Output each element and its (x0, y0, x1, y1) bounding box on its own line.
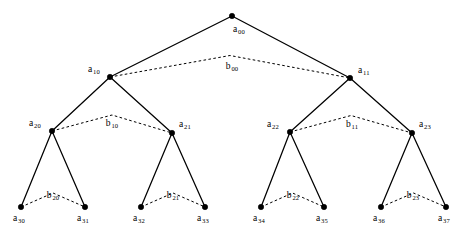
node-label-a23-subscript: 23 (423, 123, 430, 130)
tree-node-a31[interactable] (82, 204, 87, 209)
node-label-a31: a31 (77, 214, 89, 224)
node-label-a22: a22 (267, 120, 279, 130)
node-label-a31-subscript: 31 (81, 217, 88, 224)
dashed-edge-layer (21, 56, 446, 208)
tree-node-a35[interactable] (321, 204, 326, 209)
edge-label-b20: b20 (47, 191, 59, 201)
node-label-a37-subscript: 37 (442, 217, 449, 224)
tree-node-a32[interactable] (138, 204, 143, 209)
edge-label-b23: b23 (407, 191, 419, 201)
node-label-a21-subscript: 21 (183, 123, 190, 130)
node-label-a10: a10 (88, 65, 100, 75)
node-label-a20-subscript: 20 (33, 122, 40, 129)
node-label-a11-subscript: 11 (362, 69, 369, 76)
tree-node-a20[interactable] (49, 128, 54, 133)
edge-label-b20-subscript: 20 (52, 194, 59, 201)
edge-label-b22: b22 (287, 191, 299, 201)
edge-label-b00: b00 (226, 62, 238, 72)
edge-label-b00-subscript: 00 (231, 65, 238, 72)
edge-label-b10-subscript: 10 (111, 122, 118, 129)
tree-node-a36[interactable] (378, 204, 383, 209)
tree-canvas (0, 0, 467, 240)
tree-edge-a00-a11 (232, 16, 350, 78)
binary-tree-diagram: b00b10b11b20b21b22b23a00a10a11a20a21a22a… (0, 0, 467, 240)
tree-node-a37[interactable] (443, 204, 448, 209)
edge-label-b23-subscript: 23 (412, 194, 419, 201)
node-label-a34: a34 (253, 214, 265, 224)
tree-edge-a10-a21 (110, 77, 172, 133)
tree-node-a33[interactable] (202, 204, 207, 209)
node-label-a36: a36 (373, 214, 385, 224)
solid-edge-layer (21, 16, 446, 207)
edge-label-b22-subscript: 22 (292, 194, 299, 201)
node-label-a37: a37 (438, 214, 450, 224)
edge-label-b21-subscript: 21 (172, 194, 179, 201)
edge-label-b10: b10 (106, 119, 118, 129)
node-label-a10-subscript: 10 (92, 68, 99, 75)
node-label-a22-subscript: 22 (271, 123, 278, 130)
node-label-a34-subscript: 34 (257, 217, 264, 224)
node-layer (18, 13, 448, 209)
node-label-a23: a23 (419, 120, 431, 130)
node-label-a32-subscript: 32 (137, 217, 144, 224)
tree-node-a00[interactable] (229, 13, 234, 18)
tree-node-a11[interactable] (347, 75, 352, 80)
tree-node-a22[interactable] (287, 129, 292, 134)
node-label-a32: a32 (133, 214, 145, 224)
tree-edge-a00-a10 (110, 16, 232, 77)
node-label-a33-subscript: 33 (201, 217, 208, 224)
node-label-a36-subscript: 36 (377, 217, 384, 224)
edge-label-b11: b11 (346, 120, 358, 130)
edge-label-b11-subscript: 11 (351, 123, 358, 130)
node-label-a30: a30 (13, 214, 25, 224)
edge-label-b21: b21 (167, 191, 179, 201)
node-label-a20: a20 (29, 119, 41, 129)
node-label-a11: a11 (358, 66, 370, 76)
node-label-a00: a00 (233, 25, 245, 35)
tree-node-a34[interactable] (258, 204, 263, 209)
tree-node-a30[interactable] (18, 204, 23, 209)
node-label-a35: a35 (316, 214, 328, 224)
node-label-a00-subscript: 00 (237, 28, 244, 35)
node-label-a35-subscript: 35 (320, 217, 327, 224)
node-label-a30-subscript: 30 (17, 217, 24, 224)
node-label-a33: a33 (197, 214, 209, 224)
tree-edge-a11-a23 (350, 78, 412, 133)
tree-node-a23[interactable] (409, 130, 414, 135)
node-label-a21: a21 (179, 120, 191, 130)
tree-node-a21[interactable] (169, 130, 174, 135)
tree-node-a10[interactable] (107, 74, 112, 79)
